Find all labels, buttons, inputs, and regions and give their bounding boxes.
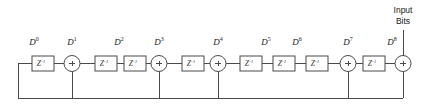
tap-labels: D0D1D2D3D4D5D6D7D8: [28, 36, 397, 47]
delay-element: Z-1: [182, 56, 204, 71]
input-bits-label-line2: Bits: [396, 16, 410, 26]
delay-element: Z-1: [95, 56, 117, 71]
delay-element: Z-1: [363, 56, 385, 71]
diagram-canvas: Z-1Z-1Z-1Z-1Z-1Z-1Z-1Z-1D0D1D2D3D4D5D6D7…: [0, 0, 427, 109]
tap-label: D4: [212, 36, 223, 47]
xor-adder: [395, 56, 411, 72]
delay-element: Z-1: [240, 56, 262, 71]
tap-label: D7: [342, 36, 353, 47]
tap-label: D1: [66, 36, 77, 47]
delay-element: Z-1: [273, 56, 295, 71]
tap-label: D2: [113, 36, 124, 47]
tap-label: D8: [386, 36, 397, 47]
tap-label: D0: [28, 36, 39, 47]
tap-label: D5: [260, 36, 271, 47]
input-bits-label-line1: Input: [394, 5, 414, 15]
xor-adder: [151, 56, 167, 72]
xor-adder: [340, 56, 356, 72]
input-bits-group: InputBits: [394, 5, 414, 56]
lfsr-block-diagram: Z-1Z-1Z-1Z-1Z-1Z-1Z-1Z-1D0D1D2D3D4D5D6D7…: [0, 0, 427, 109]
xor-adder: [210, 56, 226, 72]
tap-label: D3: [153, 36, 164, 47]
tap-label: D6: [291, 36, 302, 47]
xor-adder: [64, 56, 80, 72]
delay-element: Z-1: [124, 56, 146, 71]
delay-element: Z-1: [32, 56, 54, 71]
delay-element: Z-1: [306, 56, 328, 71]
